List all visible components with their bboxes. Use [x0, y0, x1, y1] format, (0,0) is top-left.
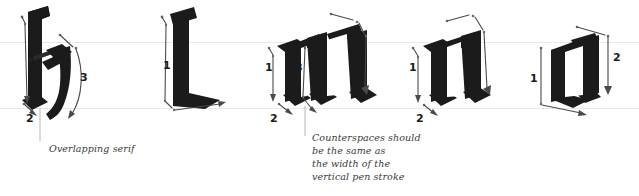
stroke-number-h-2: 2: [26, 113, 34, 124]
letter-h-group: 1 2 3: [0, 0, 140, 150]
stroke-number-h-3: 3: [80, 72, 88, 83]
annotation-counterspaces: Counterspaces should be the same as the …: [312, 131, 452, 183]
stroke-number-o-2: 2: [613, 52, 621, 63]
stroke-number-m-3: 3: [295, 62, 303, 73]
stroke-number-n-2: 2: [416, 113, 424, 124]
letter-m-glyph: [265, 0, 395, 130]
letter-n-group: 1 2 3: [405, 0, 525, 130]
letter-o-glyph: [525, 0, 639, 130]
stroke-number-l-1: 1: [163, 60, 171, 71]
letter-m-group: 1 2 3 4: [265, 0, 395, 130]
stroke-number-m-4: 4: [352, 62, 360, 73]
letter-l-group: 1: [150, 0, 260, 130]
letter-h-glyph: [0, 0, 140, 150]
annotation-overlapping-serif: Overlapping serif: [49, 142, 159, 155]
stroke-number-m-2: 2: [270, 113, 278, 124]
letter-o-group: 1 2: [525, 0, 639, 130]
stroke-number-h-1: 1: [28, 55, 36, 66]
stroke-number-o-1: 1: [530, 73, 538, 84]
stroke-number-n-3: 3: [468, 58, 476, 69]
stroke-number-n-1: 1: [409, 62, 417, 73]
letter-n-glyph: [405, 0, 525, 130]
stroke-number-m-1: 1: [265, 62, 273, 73]
figure-canvas: 1 2 3 Overlapping serif 1: [0, 0, 639, 196]
